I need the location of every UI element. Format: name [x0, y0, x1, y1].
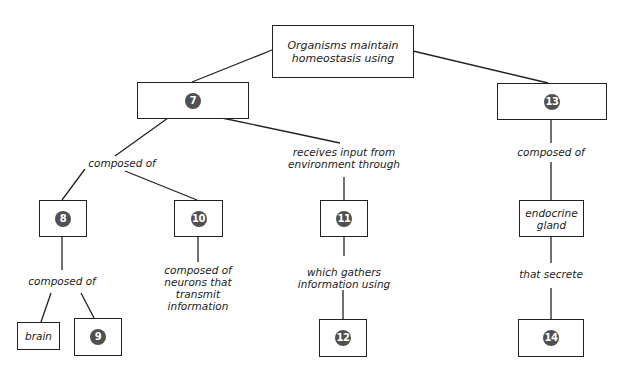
node-7-box: 7: [137, 82, 249, 119]
root-text-line1: Organisms maintain: [287, 39, 398, 52]
node-9-box: 9: [74, 318, 122, 356]
node-9-badge: 9: [90, 329, 106, 345]
root-text-line2: homeostasis using: [287, 52, 398, 65]
gathers-line1: which gathers: [288, 266, 400, 278]
node-10-box: 10: [174, 200, 223, 237]
link-label-composed-of-7: composed of: [72, 157, 172, 169]
node-8-badge: 8: [55, 211, 71, 227]
neurons-line3: transmit: [153, 288, 243, 300]
link-label-receives-input: receives input from environment through: [284, 146, 404, 170]
node-7-badge: 7: [185, 93, 201, 109]
neurons-line1: composed of: [153, 264, 243, 276]
endocrine-line1: endocrine: [525, 207, 577, 219]
node-12-box: 12: [319, 319, 367, 357]
endocrine-line2: gland: [525, 219, 577, 231]
brain-text: brain: [25, 330, 52, 342]
node-13-badge: 13: [544, 94, 560, 110]
node-11-box: 11: [320, 200, 368, 237]
receives-line2: environment through: [284, 158, 404, 170]
link-label-composed-of-13: composed of: [510, 146, 592, 158]
receives-line1: receives input from: [284, 146, 404, 158]
link-label-composed-of-8: composed of: [22, 275, 102, 287]
node-12-badge: 12: [335, 330, 351, 346]
node-10-badge: 10: [191, 211, 207, 227]
node-14-badge: 14: [543, 330, 559, 346]
link-label-neurons-transmit: composed of neurons that transmit inform…: [153, 264, 243, 312]
brain-box: brain: [17, 322, 60, 350]
gathers-line2: information using: [288, 278, 400, 290]
node-13-box: 13: [497, 83, 607, 120]
node-14-box: 14: [518, 319, 584, 357]
node-8-box: 8: [39, 200, 87, 237]
neurons-line4: information: [153, 300, 243, 312]
endocrine-gland-box: endocrine gland: [519, 200, 584, 237]
link-label-gathers-information: which gathers information using: [288, 266, 400, 290]
neurons-line2: neurons that: [153, 276, 243, 288]
node-11-badge: 11: [336, 211, 352, 227]
link-label-that-secrete: that secrete: [511, 268, 591, 280]
root-concept-box: Organisms maintain homeostasis using: [272, 25, 414, 78]
